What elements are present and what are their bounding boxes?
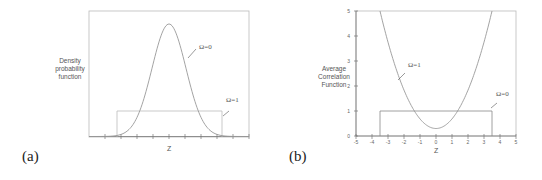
x-tick-label: 1 bbox=[451, 139, 454, 145]
x-tick-label: 3 bbox=[483, 139, 486, 145]
x-tick-label: 4 bbox=[499, 139, 502, 145]
y-tick-label: 2 bbox=[347, 83, 350, 89]
x-tick-label: -5 bbox=[354, 139, 359, 145]
panel-b-omega0-rect bbox=[380, 111, 492, 136]
panel-a-xlabel: Z bbox=[167, 145, 172, 152]
x-tick-label: 5 bbox=[515, 139, 518, 145]
panel-b-annotation-omega1: Ω=1 bbox=[408, 61, 421, 69]
y-tick-label: 1 bbox=[347, 108, 350, 114]
panel-a-annotation-omega1: Ω=1 bbox=[226, 96, 239, 104]
panel-a-omega1-rect bbox=[117, 111, 222, 137]
figure-canvas: Ω=0 Ω=1 Z 012345 -5-4-3-2-1012345 Ω=1 Ω=… bbox=[0, 0, 542, 180]
x-tick-label: -3 bbox=[386, 139, 391, 145]
x-tick-label: -4 bbox=[370, 139, 375, 145]
panel-a-annotation-omega0: Ω=0 bbox=[199, 43, 212, 51]
panel-a-frame bbox=[89, 11, 249, 137]
x-tick-label: 0 bbox=[435, 139, 438, 145]
x-tick-label: -1 bbox=[418, 139, 423, 145]
y-tick-label: 4 bbox=[347, 33, 350, 39]
y-tick-label: 3 bbox=[347, 58, 350, 64]
y-tick-label: 5 bbox=[347, 8, 350, 14]
x-tick-label: -2 bbox=[402, 139, 407, 145]
panel-b-annotation-omega0: Ω=0 bbox=[496, 90, 509, 98]
panel-b-xlabel: Z bbox=[434, 147, 439, 154]
panel-a-plot: Ω=0 Ω=1 Z bbox=[89, 11, 249, 152]
annotation-arrow bbox=[491, 103, 497, 108]
panel-b-plot: 012345 -5-4-3-2-1012345 Ω=1 Ω=0 Z bbox=[347, 8, 517, 154]
annotation-arrow bbox=[188, 49, 196, 58]
x-tick-label: 2 bbox=[467, 139, 470, 145]
panel-a-omega0-curve bbox=[89, 24, 249, 137]
y-tick-label: 0 bbox=[347, 133, 350, 139]
annotation-arrow bbox=[223, 111, 229, 116]
